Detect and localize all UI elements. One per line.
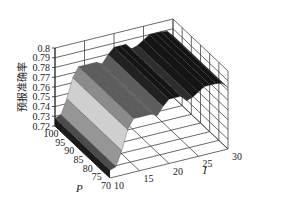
svg-text:0.78: 0.78	[33, 62, 51, 73]
svg-text:10: 10	[114, 180, 124, 191]
svg-text:15: 15	[144, 173, 154, 184]
surface-chart: 0.720.730.740.750.760.770.780.790.810095…	[0, 0, 281, 202]
svg-text:0.8: 0.8	[38, 43, 51, 54]
surface-plot-svg: 0.720.730.740.750.760.770.780.790.810095…	[0, 0, 281, 202]
p-axis-label: P	[75, 182, 83, 194]
z-axis-label: 预报准确率	[16, 62, 28, 112]
svg-text:20: 20	[173, 166, 183, 177]
svg-text:0.74: 0.74	[33, 101, 51, 112]
svg-text:0.77: 0.77	[33, 72, 51, 83]
svg-text:0.75: 0.75	[33, 91, 51, 102]
svg-text:0.73: 0.73	[33, 111, 51, 122]
svg-text:0.76: 0.76	[33, 82, 51, 93]
svg-text:30: 30	[232, 151, 242, 162]
svg-text:70: 70	[101, 180, 111, 191]
svg-text:0.79: 0.79	[33, 52, 51, 63]
